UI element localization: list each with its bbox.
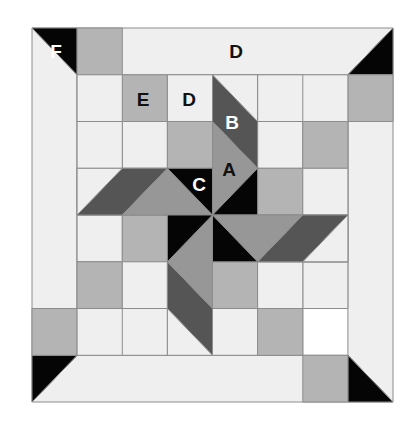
label-f: F	[50, 41, 62, 62]
border-square-right	[348, 75, 393, 122]
square	[258, 122, 303, 169]
square	[258, 75, 303, 122]
square	[303, 122, 348, 169]
square	[258, 168, 303, 215]
square	[213, 309, 258, 356]
label-a: A	[222, 159, 236, 180]
square	[167, 122, 212, 169]
square	[77, 122, 122, 169]
quilt-pieces	[32, 28, 393, 402]
label-e: E	[137, 89, 150, 110]
label-c: C	[192, 174, 206, 195]
square	[303, 168, 348, 215]
quilt-block-diagram: F D E D B A C	[0, 0, 416, 429]
label-b: B	[225, 112, 239, 133]
label-d-border: D	[229, 41, 243, 62]
square	[258, 262, 303, 309]
border-square-left	[32, 309, 77, 356]
square	[122, 122, 167, 169]
border-square-bottom	[303, 355, 348, 402]
square	[77, 215, 122, 262]
square	[258, 309, 303, 356]
label-d-inner: D	[182, 89, 196, 110]
square	[122, 215, 167, 262]
square	[122, 309, 167, 356]
square	[213, 262, 258, 309]
square	[77, 75, 122, 122]
square	[122, 262, 167, 309]
border-square-top	[77, 28, 122, 75]
square	[77, 262, 122, 309]
frame-right-lower	[303, 262, 348, 309]
